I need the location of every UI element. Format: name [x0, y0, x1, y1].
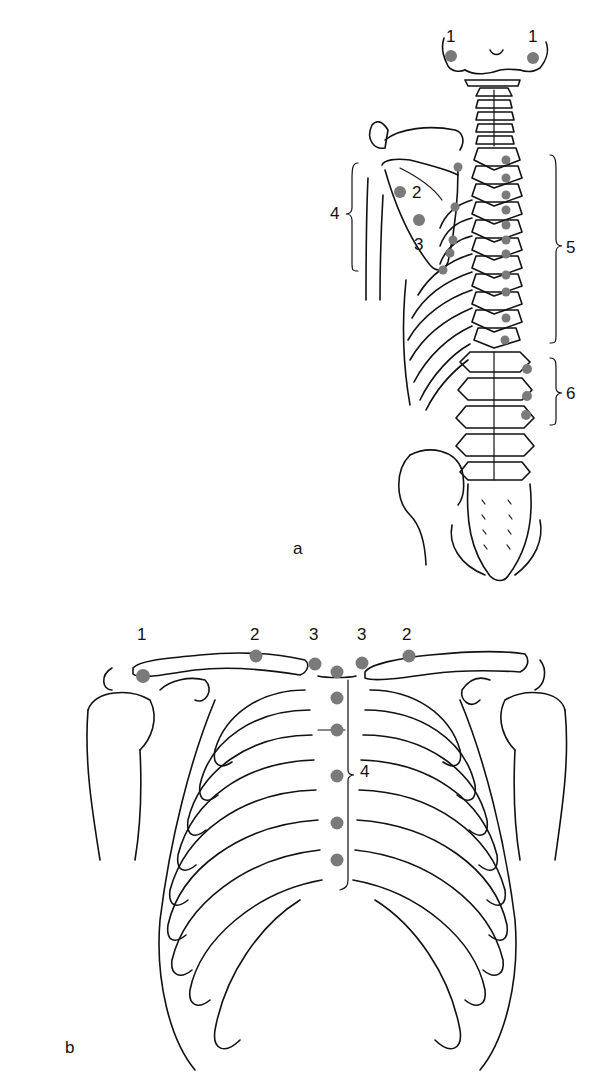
ribs-right: [353, 690, 516, 1070]
marker-label-2-left: 2: [250, 626, 259, 643]
cervical-spine: [476, 88, 514, 146]
shoulder-left: [87, 668, 209, 860]
marker-label-5: 5: [566, 239, 575, 256]
marker-label-1-right: 1: [528, 28, 537, 45]
marker-label-3: 3: [414, 236, 423, 253]
marker-label-1-left: 1: [446, 28, 455, 45]
shoulder-right: [462, 660, 567, 860]
marker-label-2-right: 2: [402, 626, 411, 643]
panel-label-b: b: [65, 1039, 74, 1056]
bracket-6: [550, 358, 562, 425]
ribs-left: [159, 690, 322, 1070]
clavicle-right: [365, 652, 528, 680]
clavicle-left: [133, 653, 308, 676]
marker-label-3-left: 3: [309, 626, 318, 643]
marker-label-1-acromioclavicular: 1: [137, 626, 146, 643]
marker-label-3-right: 3: [357, 626, 366, 643]
panel-b-anterior-view: 1 2 3 3 2 4 b: [0, 590, 605, 1085]
palpation-points-panel-b: [136, 650, 416, 867]
marker-label-6: 6: [566, 385, 575, 402]
humerus: [366, 178, 383, 300]
anterior-thorax-drawing: [0, 590, 605, 1085]
panel-label-a: a: [293, 540, 302, 557]
sacrum: [468, 484, 532, 581]
marker-label-4-sternum: 4: [360, 763, 369, 780]
thoracic-spine: [472, 148, 522, 348]
bracket-4: [346, 163, 358, 271]
marker-label-4: 4: [330, 205, 339, 222]
posterior-skeleton-drawing: [0, 0, 605, 590]
panel-a-posterior-view: 1 1 2 3 4 5 6 a: [0, 0, 605, 590]
bracket-5: [550, 155, 562, 343]
marker-label-2: 2: [412, 184, 421, 201]
ribs-posterior: [403, 200, 472, 410]
